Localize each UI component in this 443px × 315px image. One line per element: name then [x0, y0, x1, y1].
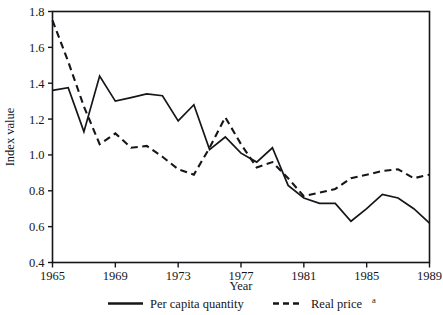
x-axis-tick-label: 1965 [40, 269, 65, 283]
y-axis-tick-label: 1.0 [29, 148, 45, 162]
series-line-per-capita-quantity [53, 76, 430, 223]
index-value-line-chart: 0.40.60.81.01.21.41.61.8 196519691973197… [0, 0, 443, 315]
chart-figure: 0.40.60.81.01.21.41.61.8 196519691973197… [0, 0, 443, 315]
chart-legend: Per capita quantity Real price a [108, 295, 376, 311]
x-axis-title: Year [229, 279, 253, 293]
x-axis-tick-label: 1981 [291, 269, 316, 283]
series-line-real-price [53, 20, 430, 196]
x-axis-tick-label: 1985 [354, 269, 379, 283]
y-axis-tick-label: 1.2 [29, 113, 45, 127]
y-axis-tick-label: 0.6 [29, 220, 45, 234]
legend-label-per-capita-quantity: Per capita quantity [150, 297, 244, 311]
y-axis-tick-label: 1.4 [29, 77, 45, 91]
y-axis-tick-label: 1.6 [29, 41, 45, 55]
legend-footnote-marker-real-price: a [372, 295, 376, 305]
legend-label-real-price: Real price [311, 297, 362, 311]
y-axis-tick-labels: 0.40.60.81.01.21.41.61.8 [29, 5, 45, 270]
y-axis-title: Index value [3, 107, 17, 166]
x-axis-tick-label: 1989 [417, 269, 442, 283]
y-axis-tick-label: 0.8 [29, 184, 45, 198]
x-axis-tick-label: 1969 [103, 269, 128, 283]
x-axis-tick-label: 1973 [166, 269, 191, 283]
y-axis-tick-label: 1.8 [29, 5, 45, 19]
